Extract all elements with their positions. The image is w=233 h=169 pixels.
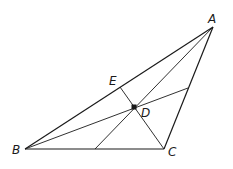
side-ca [164, 27, 213, 149]
label-d: D [141, 106, 150, 120]
triangle-diagram: A B C D E [0, 0, 233, 169]
cevian-a-to-bc [95, 27, 213, 149]
cevian-b-to-ac [25, 88, 188, 149]
point-d-marker [132, 105, 137, 110]
label-b: B [12, 143, 20, 157]
side-ab [25, 27, 213, 149]
label-e: E [109, 74, 117, 88]
label-a: A [207, 12, 216, 26]
label-c: C [168, 145, 177, 159]
